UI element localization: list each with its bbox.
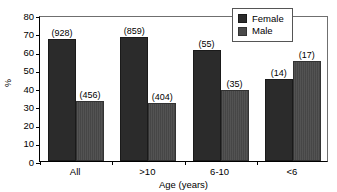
legend-item-label: Female	[252, 14, 284, 24]
bar-value-label: (17)	[289, 50, 325, 60]
bar-female-610	[193, 50, 221, 161]
legend-item-male[interactable]: Male	[238, 25, 284, 37]
bar-male-6	[293, 61, 321, 161]
x-axis-tick-mark	[257, 161, 258, 165]
x-axis-tick-label: <6	[256, 166, 328, 177]
y-axis-tick-mark	[36, 145, 40, 146]
bar-male-610	[221, 90, 249, 161]
bar-value-label: (404)	[144, 92, 180, 102]
y-axis-tick-label: 50	[14, 66, 34, 75]
y-axis-tick-label: 30	[14, 103, 34, 112]
y-axis-tick-mark	[36, 90, 40, 91]
legend-swatch-icon	[238, 14, 247, 23]
legend-item-female[interactable]: Female	[238, 13, 284, 25]
bar-value-label: (55)	[189, 39, 225, 49]
bar-value-label: (14)	[261, 68, 297, 78]
legend-swatch-icon	[238, 27, 247, 36]
bar-female-6	[265, 79, 293, 161]
y-axis-tick-label: 40	[14, 85, 34, 94]
y-axis-tick-label: 20	[14, 121, 34, 130]
bar-value-label: (456)	[72, 90, 108, 100]
y-axis-tick-mark	[36, 108, 40, 109]
x-axis-tick-label: 6-10	[184, 166, 256, 177]
y-axis-tick-mark	[36, 54, 40, 55]
y-axis-tick-labels: 01020304050607080	[12, 0, 34, 192]
bar-male-10	[148, 103, 176, 161]
bar-value-label: (859)	[116, 26, 152, 36]
y-axis-tick-mark	[36, 127, 40, 128]
y-axis-tick-label: 60	[14, 48, 34, 57]
x-axis-tick-label: All	[39, 166, 111, 177]
bar-male-All	[76, 101, 104, 161]
x-axis-tick-mark	[112, 161, 113, 165]
x-axis-tick-label: >10	[111, 166, 183, 177]
bar-chart: % 01020304050607080 (928)(456)(859)(404)…	[0, 0, 337, 192]
bar-value-label: (35)	[217, 79, 253, 89]
bar-female-All	[48, 39, 76, 161]
x-axis-title: Age (years)	[39, 179, 328, 190]
y-axis-tick-label: 10	[14, 139, 34, 148]
y-axis-tick-mark	[36, 35, 40, 36]
y-axis-tick-label: 80	[14, 12, 34, 21]
chart-legend: FemaleMale	[232, 8, 293, 42]
y-axis-tick-label: 0	[14, 158, 34, 167]
y-axis-tick-label: 70	[14, 30, 34, 39]
x-axis-tick-mark	[185, 161, 186, 165]
y-axis-tick-mark	[36, 72, 40, 73]
bar-value-label: (928)	[44, 28, 80, 38]
y-axis-tick-mark	[36, 17, 40, 18]
legend-item-label: Male	[252, 26, 273, 36]
x-axis-tick-mark	[40, 161, 41, 165]
